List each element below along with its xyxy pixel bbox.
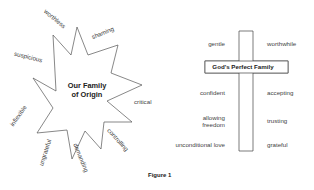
cross-left-confident: confident — [190, 89, 225, 96]
cross-right-worthwhile: worthwhile — [267, 40, 296, 47]
cross-left-freedom: freedom — [190, 121, 225, 128]
label-critical: critical — [134, 98, 152, 105]
cross-right-trusting: trusting — [267, 117, 287, 124]
figure-caption: Figure 1 — [148, 172, 171, 178]
cross-left-unconditional-love: unconditional love — [160, 141, 225, 148]
cross-left-allowing: allowing — [190, 114, 225, 121]
cross-left-gentle: gentle — [196, 40, 225, 47]
star-title-line2: of Origin — [57, 91, 117, 100]
cross-right-grateful: grateful — [267, 141, 288, 148]
cross-title: God's Perfect Family — [205, 61, 281, 73]
cross-right-accepting: accepting — [267, 89, 294, 96]
star-title: Our Family of Origin — [57, 82, 117, 99]
